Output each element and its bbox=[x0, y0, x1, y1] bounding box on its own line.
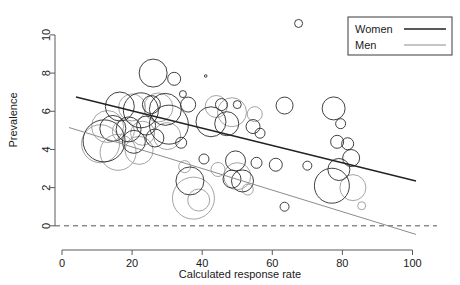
x-tick-label: 100 bbox=[403, 257, 421, 269]
y-tick-label: 10 bbox=[40, 29, 52, 41]
y-tick-label: 2 bbox=[40, 185, 52, 191]
chart-canvas: 0246810020406080100 Women Men Calculated… bbox=[0, 0, 460, 285]
x-axis-title: Calculated response rate bbox=[179, 268, 301, 280]
x-tick-label: 80 bbox=[336, 257, 348, 269]
legend-label-men: Men bbox=[355, 39, 376, 51]
bubble-chart-figure: 0246810020406080100 Women Men Calculated… bbox=[0, 0, 460, 285]
y-axis-title: Prevalence bbox=[7, 92, 19, 147]
y-tick-label: 8 bbox=[40, 70, 52, 76]
x-tick-label: 0 bbox=[59, 257, 65, 269]
y-tick-label: 4 bbox=[40, 146, 52, 152]
legend: Women Men bbox=[348, 17, 452, 55]
y-tick-label: 0 bbox=[40, 223, 52, 229]
x-tick-label: 20 bbox=[126, 257, 138, 269]
y-tick-label: 6 bbox=[40, 108, 52, 114]
legend-label-women: Women bbox=[355, 23, 393, 35]
